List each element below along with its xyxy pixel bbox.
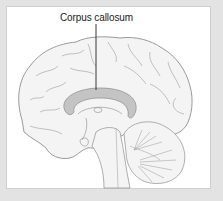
brain-diagram (0, 0, 223, 201)
